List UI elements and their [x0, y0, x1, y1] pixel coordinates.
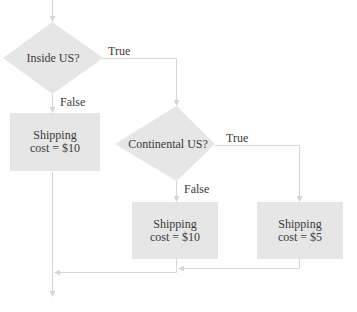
- decision-inside-us-label: Inside US?: [3, 51, 103, 65]
- connector-b2-merge: [55, 259, 177, 273]
- connector-b3-merge: [179, 259, 300, 269]
- edge-label-d2-false: False: [184, 182, 209, 196]
- process-line2: cost = $5: [278, 231, 322, 244]
- process-line2: cost = $10: [150, 231, 200, 244]
- process-shipping-5-label: Shipping cost = $5: [257, 202, 343, 259]
- process-line2: cost = $10: [30, 142, 80, 155]
- edge-label-d1-true: True: [108, 44, 130, 58]
- edge-label-d1-false: False: [60, 95, 85, 109]
- decision-continental-us-label: Continental US?: [118, 137, 218, 151]
- process-shipping-10-a-label: Shipping cost = $10: [10, 113, 100, 171]
- process-line1: Shipping: [153, 218, 196, 231]
- decision-text: Continental US?: [128, 138, 208, 151]
- process-line1: Shipping: [278, 218, 321, 231]
- connector-d2-true: [215, 146, 300, 202]
- decision-text: Inside US?: [27, 52, 80, 65]
- edge-label-d2-true: True: [226, 131, 248, 145]
- connector-d1-true: [103, 59, 177, 106]
- process-shipping-10-b-label: Shipping cost = $10: [132, 202, 218, 259]
